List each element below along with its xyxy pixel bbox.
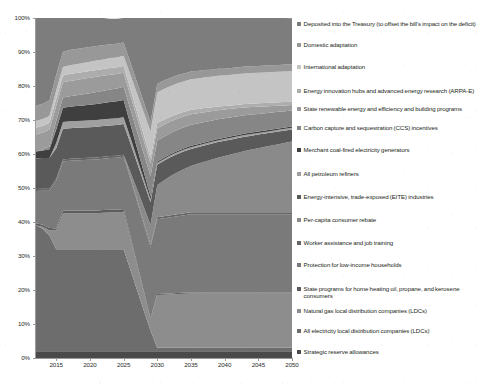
y-tick-mark bbox=[33, 324, 35, 325]
y-tick-label: 90% bbox=[18, 49, 30, 55]
legend-label: Carbon capture and sequestration (CCS) i… bbox=[304, 124, 438, 131]
x-axis: 20152020202520302035204020452050 bbox=[36, 361, 292, 375]
legend-item[interactable]: Strategic reserve allowances bbox=[297, 348, 482, 355]
legend-swatch-icon bbox=[297, 22, 301, 26]
legend-swatch-icon bbox=[297, 172, 301, 176]
legend-swatch-icon bbox=[297, 241, 301, 245]
legend-item[interactable]: All petroleum refiners bbox=[297, 170, 482, 177]
y-axis: 0%10%20%30%40%50%60%70%80%90%100% bbox=[0, 18, 34, 358]
legend-label: Strategic reserve allowances bbox=[304, 348, 379, 355]
y-tick-mark bbox=[33, 120, 35, 121]
x-tick-label: 2035 bbox=[184, 361, 197, 368]
y-tick-label: 30% bbox=[18, 253, 30, 259]
legend-label: Energy-intensive, trade-exposed (EITE) i… bbox=[304, 193, 434, 200]
x-tick-mark bbox=[90, 359, 91, 361]
y-tick-label: 80% bbox=[18, 83, 30, 89]
y-tick-label: 0% bbox=[21, 355, 30, 361]
legend-item[interactable]: Energy-intensive, trade-exposed (EITE) i… bbox=[297, 193, 482, 200]
legend-swatch-icon bbox=[297, 126, 301, 130]
legend-label: Worker assistance and job training bbox=[304, 239, 393, 246]
legend-swatch-icon bbox=[297, 195, 301, 199]
y-tick-mark bbox=[33, 18, 35, 19]
legend-item[interactable]: Protection for low-income households bbox=[297, 261, 482, 268]
legend-item[interactable]: State programs for home heating oil, pro… bbox=[297, 285, 482, 300]
stacked-area-chart: Strategic reserve allowancesAll electric… bbox=[36, 18, 292, 358]
y-tick-mark bbox=[33, 86, 35, 87]
legend-swatch-icon bbox=[297, 107, 301, 111]
legend-label: International adaptation bbox=[304, 63, 365, 70]
y-tick-label: 40% bbox=[18, 219, 30, 225]
y-tick-label: 70% bbox=[18, 117, 30, 123]
legend-label: All electricity local distribution compa… bbox=[304, 327, 430, 334]
figure-container: 0%10%20%30%40%50%60%70%80%90%100% Strate… bbox=[0, 0, 482, 391]
legend-label: Natural gas local distribution companies… bbox=[304, 307, 427, 314]
legend-swatch-icon bbox=[297, 309, 301, 313]
legend-item[interactable]: International adaptation bbox=[297, 63, 482, 70]
legend-item[interactable]: All electricity local distribution compa… bbox=[297, 327, 482, 334]
y-tick-mark bbox=[33, 188, 35, 189]
legend-item[interactable]: Carbon capture and sequestration (CCS) i… bbox=[297, 124, 482, 131]
y-tick-mark bbox=[33, 52, 35, 53]
plot-area: Strategic reserve allowancesAll electric… bbox=[36, 18, 292, 358]
y-tick-label: 20% bbox=[18, 287, 30, 293]
y-tick-mark bbox=[33, 222, 35, 223]
x-tick-mark bbox=[292, 359, 293, 361]
legend-label: Domestic adaptation bbox=[304, 41, 358, 48]
x-tick-label: 2040 bbox=[218, 361, 231, 368]
y-tick-label: 50% bbox=[18, 185, 30, 191]
y-tick-mark bbox=[33, 256, 35, 257]
x-axis-line bbox=[35, 358, 293, 359]
legend-label: Deposited into the Treasury (to offset t… bbox=[304, 20, 476, 27]
legend-swatch-icon bbox=[297, 350, 301, 354]
x-tick-label: 2025 bbox=[117, 361, 130, 368]
legend-swatch-icon bbox=[297, 148, 301, 152]
legend-label: State renewable energy and efficiency an… bbox=[304, 105, 462, 112]
x-tick-label: 2020 bbox=[83, 361, 96, 368]
legend-item[interactable]: Energy innovation hubs and advanced ener… bbox=[297, 87, 482, 94]
y-tick-label: 60% bbox=[18, 151, 30, 157]
y-tick-mark bbox=[33, 154, 35, 155]
chart-legend: Deposited into the Treasury (to offset t… bbox=[297, 18, 482, 368]
legend-label: Merchant coal-fired electricity generato… bbox=[304, 146, 410, 153]
x-tick-mark bbox=[124, 359, 125, 361]
legend-swatch-icon bbox=[297, 218, 301, 222]
legend-swatch-icon bbox=[297, 287, 301, 291]
y-tick-mark bbox=[33, 358, 35, 359]
x-tick-label: 2045 bbox=[252, 361, 265, 368]
y-tick-label: 10% bbox=[18, 321, 30, 327]
area-band: Strategic reserve allowances bbox=[36, 351, 292, 358]
x-tick-mark bbox=[225, 359, 226, 361]
y-tick-label: 100% bbox=[15, 15, 30, 21]
legend-item[interactable]: Deposited into the Treasury (to offset t… bbox=[297, 20, 482, 27]
y-tick-mark bbox=[33, 290, 35, 291]
legend-item[interactable]: State renewable energy and efficiency an… bbox=[297, 105, 482, 112]
legend-item[interactable]: Domestic adaptation bbox=[297, 41, 482, 48]
legend-swatch-icon bbox=[297, 65, 301, 69]
legend-swatch-icon bbox=[297, 263, 301, 267]
legend-swatch-icon bbox=[297, 329, 301, 333]
legend-item[interactable]: Natural gas local distribution companies… bbox=[297, 307, 482, 314]
legend-item[interactable]: Per-capita consumer rebate bbox=[297, 216, 482, 223]
legend-swatch-icon bbox=[297, 43, 301, 47]
legend-label: Protection for low-income households bbox=[304, 261, 402, 268]
legend-item[interactable]: Worker assistance and job training bbox=[297, 239, 482, 246]
legend-label: Per-capita consumer rebate bbox=[304, 216, 377, 223]
x-tick-mark bbox=[191, 359, 192, 361]
legend-item[interactable]: Merchant coal-fired electricity generato… bbox=[297, 146, 482, 153]
x-tick-mark bbox=[258, 359, 259, 361]
x-tick-mark bbox=[157, 359, 158, 361]
legend-swatch-icon bbox=[297, 89, 301, 93]
legend-label: Energy innovation hubs and advanced ener… bbox=[304, 87, 475, 94]
legend-label: All petroleum refiners bbox=[304, 170, 359, 177]
x-tick-label: 2015 bbox=[50, 361, 63, 368]
x-tick-label: 2030 bbox=[151, 361, 164, 368]
x-tick-mark bbox=[56, 359, 57, 361]
legend-label: State programs for home heating oil, pro… bbox=[304, 285, 482, 300]
